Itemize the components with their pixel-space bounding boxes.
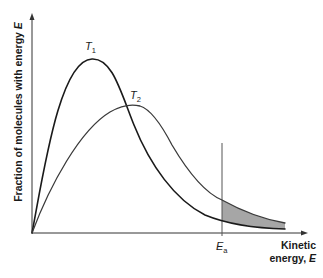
t1-label: T1: [85, 40, 96, 55]
maxwell-boltzmann-chart: T1 T2 Ea Kinetic energy, E Fraction of m…: [0, 0, 323, 278]
t1-curve: [32, 59, 285, 233]
ea-label: Ea: [216, 240, 228, 255]
y-axis-label: Fraction of molecules with energy E: [12, 21, 24, 202]
x-axis-arrow-icon: [301, 231, 308, 236]
t2-label: T2: [130, 89, 141, 104]
y-axis-arrow-icon: [30, 13, 35, 20]
x-axis-label-line1: Kinetic: [281, 239, 316, 251]
x-axis-label-line2: energy, E: [269, 252, 317, 264]
